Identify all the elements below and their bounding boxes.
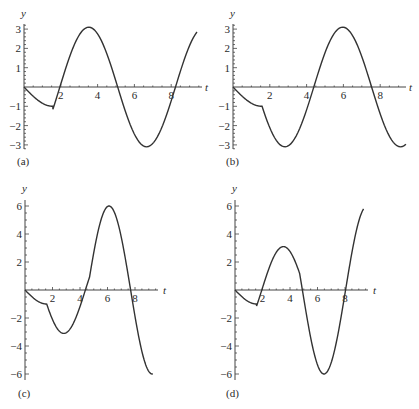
y-tick-label: 1 <box>16 62 22 74</box>
panel-a-caption: (a) <box>17 155 30 168</box>
panel-a-y-label: y <box>20 7 26 19</box>
figure-four-panels: 2468321−1−2−3 y t (a) 2468321−1−2−3 y t … <box>0 0 419 409</box>
y-tick-label: −2 <box>220 312 232 324</box>
panel-d-t-label: t <box>373 284 377 296</box>
y-tick-label: −2 <box>10 312 22 324</box>
y-tick-label: −3 <box>218 139 230 151</box>
y-tick-label: 4 <box>17 228 23 240</box>
panel-c-t-label: t <box>163 284 167 296</box>
panel-d-y-label: y <box>231 182 237 194</box>
y-tick-label: −1 <box>9 100 21 112</box>
y-tick-label: −2 <box>9 120 21 132</box>
y-tick-label: −4 <box>10 340 22 352</box>
t-tick-label: 6 <box>341 89 347 101</box>
panel-b-y-label: y <box>229 7 235 19</box>
y-tick-label: 3 <box>16 23 22 35</box>
y-tick-label: 6 <box>17 200 23 212</box>
panel-c-axes: 2468642−2−4−6 <box>10 200 158 380</box>
y-tick-label: 2 <box>225 42 231 54</box>
y-tick-label: 1 <box>225 62 231 74</box>
panel-b-caption: (b) <box>226 155 239 168</box>
y-tick-label: −1 <box>218 100 230 112</box>
panel-a-axes: 2468321−1−2−3 <box>9 23 202 151</box>
y-tick-label: 6 <box>227 200 233 212</box>
y-tick-label: −4 <box>220 340 232 352</box>
panel-a-t-label: t <box>205 81 209 93</box>
panel-c: 2468642−2−4−6 y t (c) <box>10 182 167 400</box>
y-tick-label: 4 <box>227 228 233 240</box>
t-tick-label: 6 <box>105 292 111 304</box>
t-tick-label: 6 <box>132 89 138 101</box>
y-tick-label: −2 <box>218 120 230 132</box>
panel-a: 2468321−1−2−3 y t (a) <box>9 7 209 168</box>
y-tick-label: 2 <box>17 256 23 268</box>
y-tick-label: 2 <box>227 256 233 268</box>
panel-b-axes: 2468321−1−2−3 <box>218 23 406 151</box>
t-tick-label: 4 <box>304 89 310 101</box>
y-tick-label: −6 <box>220 368 232 380</box>
panel-c-y-label: y <box>21 182 27 194</box>
t-tick-label: 4 <box>95 89 101 101</box>
t-tick-label: 2 <box>50 292 56 304</box>
y-tick-label: 3 <box>225 23 231 35</box>
y-tick-label: 2 <box>16 42 22 54</box>
panel-b-t-label: t <box>409 81 413 93</box>
panel-c-caption: (c) <box>18 387 31 400</box>
y-tick-label: −6 <box>10 368 22 380</box>
t-tick-label: 8 <box>377 89 383 101</box>
y-tick-label: −3 <box>9 139 21 151</box>
t-tick-label: 6 <box>315 292 321 304</box>
panel-d-caption: (d) <box>226 387 239 400</box>
panel-d: 2468642−2−4−6 y t (d) <box>220 182 377 400</box>
t-tick-label: 4 <box>287 292 293 304</box>
panel-b: 2468321−1−2−3 y t (b) <box>218 7 413 168</box>
t-tick-label: 2 <box>267 89 273 101</box>
